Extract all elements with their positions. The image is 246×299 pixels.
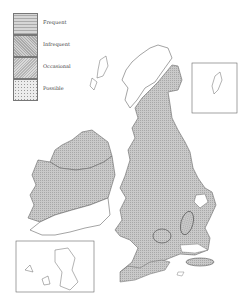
- legend: Frequent Infrequent Occasional Possible: [13, 13, 83, 103]
- possible-swatch-icon: [13, 79, 38, 101]
- channel-islands-inset: [16, 241, 94, 292]
- legend-item-frequent: Frequent: [13, 13, 83, 35]
- legend-label: Infrequent: [43, 41, 70, 47]
- south-oval: [186, 258, 214, 266]
- legend-label: Occasional: [43, 63, 71, 69]
- wales-oval: [153, 229, 171, 243]
- legend-label: Frequent: [43, 19, 66, 25]
- legend-label: Possible: [43, 85, 64, 91]
- legend-item-possible: Possible: [13, 79, 83, 101]
- occasional-swatch-icon: [13, 57, 38, 79]
- infrequent-swatch-icon: [13, 35, 38, 57]
- western-isles: [97, 56, 108, 78]
- legend-item-occasional: Occasional: [13, 57, 83, 79]
- frequent-swatch-icon: [13, 13, 38, 35]
- legend-item-infrequent: Infrequent: [13, 35, 83, 57]
